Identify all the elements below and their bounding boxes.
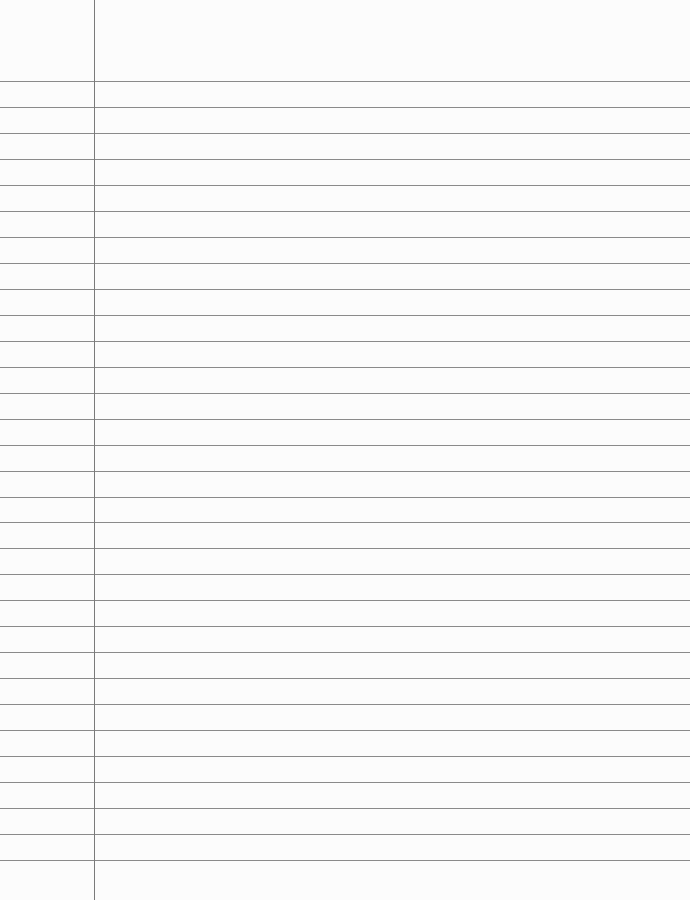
lined-paper-sheet <box>0 0 690 900</box>
ruled-line <box>0 756 690 757</box>
ruled-line <box>0 185 690 186</box>
ruled-line <box>0 704 690 705</box>
ruled-line <box>0 574 690 575</box>
ruled-line <box>0 107 690 108</box>
ruled-line <box>0 782 690 783</box>
ruled-line <box>0 237 690 238</box>
ruled-line <box>0 159 690 160</box>
ruled-line <box>0 600 690 601</box>
ruled-line <box>0 445 690 446</box>
ruled-line <box>0 81 690 82</box>
ruled-line <box>0 678 690 679</box>
ruled-line <box>0 133 690 134</box>
ruled-line <box>0 289 690 290</box>
ruled-line <box>0 211 690 212</box>
ruled-line <box>0 834 690 835</box>
ruled-line <box>0 419 690 420</box>
ruled-line <box>0 471 690 472</box>
ruled-line <box>0 652 690 653</box>
ruled-line <box>0 263 690 264</box>
margin-line <box>94 0 95 900</box>
ruled-line <box>0 341 690 342</box>
ruled-line <box>0 548 690 549</box>
ruled-line <box>0 497 690 498</box>
ruled-line <box>0 522 690 523</box>
ruled-line <box>0 315 690 316</box>
ruled-line <box>0 860 690 861</box>
ruled-line <box>0 367 690 368</box>
ruled-line <box>0 393 690 394</box>
ruled-line <box>0 626 690 627</box>
ruled-line <box>0 730 690 731</box>
ruled-line <box>0 808 690 809</box>
